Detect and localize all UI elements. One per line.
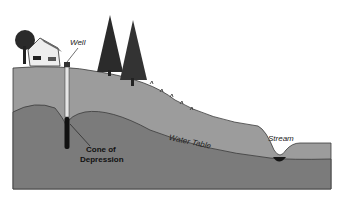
cone-of-depression-label-line2: Depression <box>80 155 124 164</box>
well-leader-line <box>67 48 78 62</box>
tree-left-icon <box>97 15 123 76</box>
tree-right-icon <box>120 20 147 86</box>
groundwater-diagram <box>0 0 342 201</box>
well-icon <box>64 62 70 149</box>
well-label: Well <box>70 38 85 47</box>
cone-of-depression-label-line1: Cone of <box>86 145 116 154</box>
stream-label: Stream <box>268 134 294 143</box>
